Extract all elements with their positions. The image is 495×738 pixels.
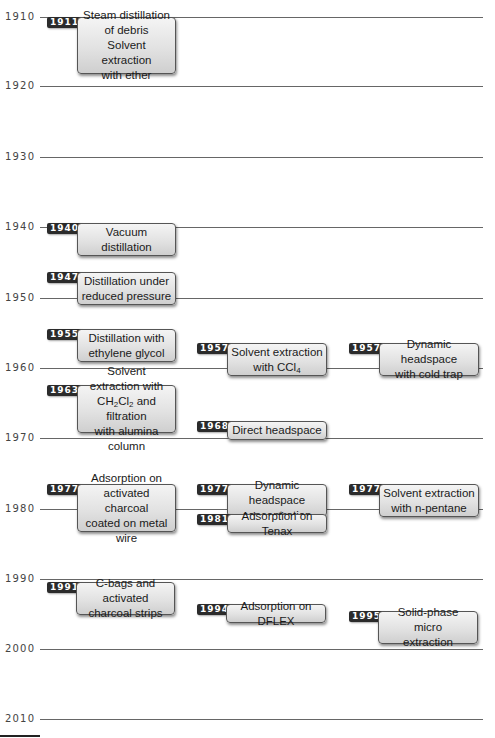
- year-tick-1990: 1990: [5, 573, 35, 585]
- event-box-vacuum-distillation: Vacuum distillation: [77, 223, 176, 256]
- event-text: with cold trap: [383, 367, 475, 382]
- event-text: Solvent extraction with: [81, 364, 172, 394]
- event-box-steam-distillation: Steam distillation of debris Solvent ext…: [77, 17, 176, 74]
- year-tick-1910: 1910: [5, 11, 35, 23]
- event-text: Distillation under: [82, 274, 172, 289]
- event-text: Solvent extraction: [231, 345, 322, 360]
- year-tick-2010: 2010: [5, 713, 35, 725]
- event-text: with n-pentane: [383, 501, 474, 516]
- event-box-ch2cl2-extraction: Solvent extraction with CH2Cl2 and filtr…: [77, 385, 176, 433]
- event-text: of debris: [81, 23, 172, 38]
- year-tick-1970: 1970: [5, 432, 35, 444]
- formula-text: Cl: [118, 395, 129, 407]
- event-text: Adsorption on DFLEX: [230, 599, 322, 629]
- year-tick-1940: 1940: [5, 221, 35, 233]
- event-text: with alumina column: [81, 424, 172, 454]
- gridline-1920: [40, 86, 483, 87]
- year-tick-1950: 1950: [5, 292, 35, 304]
- event-text: Dynamic headspace: [231, 478, 323, 508]
- year-tick-1960: 1960: [5, 362, 35, 374]
- event-box-ethylene-glycol: Distillation with ethylene glycol: [77, 329, 176, 362]
- event-text: Solvent extraction: [383, 486, 474, 501]
- formula-subscript: 4: [296, 366, 300, 375]
- formula-text: CH: [97, 395, 114, 407]
- event-text-ccl4: with CCl4: [231, 360, 322, 375]
- event-text: extraction: [382, 635, 474, 650]
- event-text: ethylene glycol: [88, 346, 164, 361]
- event-text: Distillation with: [88, 331, 164, 346]
- year-tick-1980: 1980: [5, 503, 35, 515]
- event-text: charcoal strips: [80, 606, 171, 621]
- event-box-reduced-pressure: Distillation under reduced pressure: [77, 272, 176, 305]
- event-text: C-bags and activated: [80, 576, 171, 606]
- event-text-ch2cl2: CH2Cl2 and filtration: [81, 394, 172, 424]
- event-box-dflex: Adsorption on DFLEX: [226, 604, 326, 623]
- event-text: Solvent extraction: [81, 38, 172, 68]
- year-tick-1920: 1920: [5, 80, 35, 92]
- year-tick-1930: 1930: [5, 151, 35, 163]
- gridline-2010: [40, 719, 483, 720]
- event-text: Solid-phase micro: [382, 605, 474, 635]
- event-text: distillation: [101, 240, 152, 255]
- event-box-charcoal-wire: Adsorption on activated charcoal coated …: [77, 484, 176, 532]
- event-text: Steam distillation: [81, 8, 172, 23]
- year-tick-2000: 2000: [5, 643, 35, 655]
- formula-text: with CCl: [253, 361, 296, 373]
- event-box-c-bags: C-bags and activated charcoal strips: [76, 582, 175, 615]
- event-text: Direct headspace: [232, 423, 322, 438]
- event-text: Adsorption on: [81, 471, 172, 486]
- event-box-ccl4-extraction: Solvent extraction with CCl4: [227, 343, 327, 376]
- event-box-direct-headspace: Direct headspace: [227, 421, 327, 440]
- corner-rule: [0, 735, 40, 737]
- event-box-tenax: Adsorption on Tenax: [227, 514, 327, 533]
- event-text: reduced pressure: [82, 289, 172, 304]
- event-box-spme: Solid-phase micro extraction: [378, 611, 478, 644]
- event-text: Vacuum: [101, 225, 152, 240]
- event-text: Dynamic headspace: [383, 337, 475, 367]
- event-text: Adsorption on Tenax: [231, 509, 323, 539]
- event-text: activated charcoal: [81, 486, 172, 516]
- event-box-cold-trap: Dynamic headspace with cold trap: [379, 343, 479, 376]
- gridline-1930: [40, 157, 483, 158]
- event-box-n-pentane: Solvent extraction with n-pentane: [379, 484, 479, 517]
- event-text: with ether: [81, 68, 172, 83]
- event-text: coated on metal wire: [81, 516, 172, 546]
